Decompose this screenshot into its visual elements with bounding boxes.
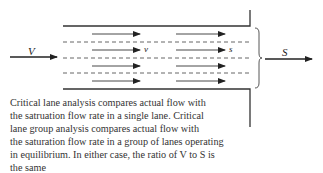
lane-dividers <box>63 42 250 73</box>
caption-line: the satruation flow rate in a single lan… <box>10 109 250 122</box>
caption-line: lane group analysis compares actual flow… <box>10 122 250 135</box>
lane-saturation-label: s <box>229 44 233 54</box>
caption-line: in equilibrium. In either case, the rati… <box>10 148 250 161</box>
caption: Critical lane analysis compares actual f… <box>10 96 250 173</box>
caption-line: Critical lane analysis compares actual f… <box>10 96 250 109</box>
group-brace <box>255 28 262 88</box>
lane-flow-arrows <box>92 34 225 81</box>
output-label: S <box>282 46 288 58</box>
lane-flow-label: v <box>144 44 148 54</box>
caption-line: the same <box>10 161 250 173</box>
input-label: V <box>28 45 35 57</box>
caption-line: the saturation flow rate in a group of l… <box>10 135 250 148</box>
